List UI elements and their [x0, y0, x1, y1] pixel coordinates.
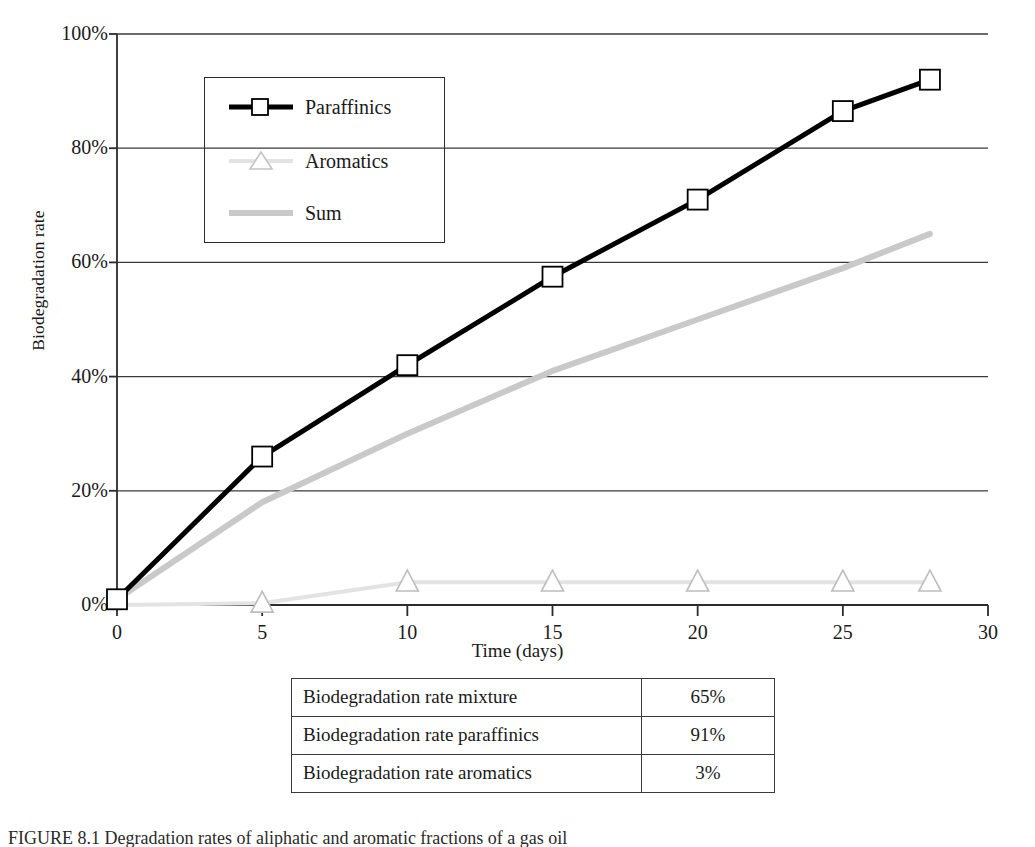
x-axis-tick-label: 10	[377, 622, 437, 642]
table-row: Biodegradation rate aromatics3%	[292, 755, 775, 793]
summary-table: Biodegradation rate mixture65%Biodegrada…	[291, 678, 775, 793]
x-axis-tick-label: 5	[232, 622, 292, 642]
table-cell-value: 91%	[641, 717, 774, 755]
table-cell-label: Biodegradation rate mixture	[292, 679, 642, 717]
x-axis-tick-label: 15	[523, 622, 583, 642]
table-cell-value: 65%	[641, 679, 774, 717]
legend-item-sum[interactable]: Sum	[205, 196, 446, 230]
table-row: Biodegradation rate mixture65%	[292, 679, 775, 717]
legend-label: Paraffinics	[305, 97, 391, 117]
chart-svg	[0, 0, 1035, 660]
x-axis-tick-label: 20	[668, 622, 728, 642]
table-cell-value: 3%	[641, 755, 774, 793]
figure-caption: FIGURE 8.1 Degradation rates of aliphati…	[8, 828, 1028, 847]
chart-plot-area: Biodegradation rate 0%20%40%60%80%100% 0…	[0, 0, 1035, 660]
x-axis-ticks	[117, 605, 988, 616]
table-cell-label: Biodegradation rate aromatics	[292, 755, 642, 793]
x-axis-title: Time (days)	[0, 640, 1035, 662]
legend-swatch-none-icon	[227, 202, 295, 224]
legend-label: Sum	[305, 203, 342, 223]
legend-item-paraffinics[interactable]: Paraffinics	[205, 90, 446, 124]
legend-swatch-square-icon	[227, 96, 295, 118]
table-row: Biodegradation rate paraffinics91%	[292, 717, 775, 755]
figure-container: Biodegradation rate 0%20%40%60%80%100% 0…	[0, 0, 1035, 847]
legend-item-aromatics[interactable]: Aromatics	[205, 144, 446, 178]
legend-swatch-triangle-icon	[227, 150, 295, 172]
legend-label: Aromatics	[305, 151, 388, 171]
x-axis-tick-label: 0	[87, 622, 147, 642]
table-cell-label: Biodegradation rate paraffinics	[292, 717, 642, 755]
x-axis-tick-label: 30	[958, 622, 1018, 642]
x-axis-tick-label: 25	[813, 622, 873, 642]
chart-legend: ParaffinicsAromaticsSum	[204, 77, 445, 243]
